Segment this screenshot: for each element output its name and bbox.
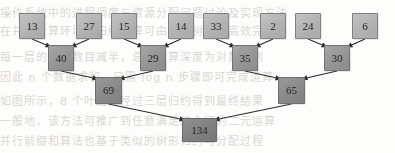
sum-reduction-tree-figure: 操作系统中的进程调度与资源分配问题讨论及实现方法 在并行计算环境下归约运算可由二… xyxy=(0,0,395,153)
tree-node-level3[interactable]: 69 xyxy=(95,77,122,104)
tree-edge xyxy=(109,104,186,120)
tree-node-leaf[interactable]: 27 xyxy=(76,13,102,39)
tree-node-level2[interactable]: 29 xyxy=(140,45,166,71)
tree-node-level2[interactable]: 40 xyxy=(48,45,74,71)
tree-node-leaf[interactable]: 15 xyxy=(111,13,137,39)
tree-node-leaf[interactable]: 33 xyxy=(203,13,229,39)
tree-node-level2[interactable]: 30 xyxy=(324,45,350,71)
tree-node-leaf[interactable]: 24 xyxy=(295,13,321,39)
tree-edge xyxy=(119,71,153,79)
tree-node-level3[interactable]: 65 xyxy=(278,77,305,104)
tree-node-leaf[interactable]: 2 xyxy=(260,13,286,39)
tree-edge xyxy=(245,71,281,79)
tree-node-leaf[interactable]: 6 xyxy=(352,13,378,39)
tree-node-level2[interactable]: 35 xyxy=(232,45,258,71)
tree-node-leaf[interactable]: 13 xyxy=(19,13,45,39)
tree-edge xyxy=(61,71,98,79)
tree-node-root[interactable]: 134 xyxy=(182,118,217,142)
tree-edge xyxy=(214,104,292,120)
tree-edge xyxy=(302,71,337,79)
tree-node-leaf[interactable]: 14 xyxy=(168,13,194,39)
